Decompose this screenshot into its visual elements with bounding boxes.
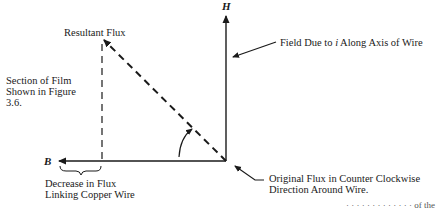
decrease-label-line2: Linking Copper Wire (45, 189, 135, 200)
decrease-label-line1: Decrease in Flux (45, 178, 116, 189)
section-of-film-label-line1: Section of Film (6, 75, 71, 86)
resultant-flux-label: Resultant Flux (64, 27, 126, 38)
original-flux-pointer-arrow (235, 166, 264, 180)
field-pointer-arrow (233, 42, 276, 57)
b-axis-label: B (44, 155, 51, 167)
section-of-film-label-line2: Shown in Figure (6, 86, 76, 97)
resultant-flux-vector (104, 40, 226, 161)
field-due-label: Field Due to i Along Axis of Wire (280, 37, 423, 48)
original-flux-label-line1: Original Flux in Counter Clockwise (269, 173, 420, 184)
rotation-arc-arrow (179, 129, 192, 157)
decrease-brace (60, 166, 101, 175)
cutoff-caption-text: · · · · · · · · · · · · · of the (346, 200, 435, 208)
original-flux-label-line2: Direction Around Wire. (269, 184, 368, 195)
section-of-film-label-line3: 3.6. (6, 97, 22, 108)
h-axis-label: H (222, 0, 231, 12)
field-due-prefix: Field Due to (280, 37, 335, 48)
field-due-suffix: Along Axis of Wire (338, 37, 423, 48)
